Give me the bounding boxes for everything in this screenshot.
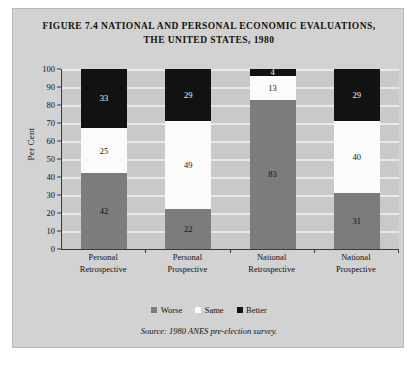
bar-segment-worse[interactable]: 22 xyxy=(165,209,211,249)
legend-swatch-icon xyxy=(237,307,243,313)
legend-item[interactable]: Same xyxy=(195,305,223,315)
x-axis-label-line: National xyxy=(314,252,398,264)
x-axis-label-line: Personal xyxy=(145,252,229,264)
bar-segment-same[interactable]: 49 xyxy=(165,121,211,209)
bar-segment-worse[interactable]: 83 xyxy=(250,100,296,249)
legend-item[interactable]: Better xyxy=(237,305,267,315)
y-axis-tick-label: 40 xyxy=(47,172,56,182)
y-axis-tick-label: 10 xyxy=(47,226,56,236)
x-axis-label-line: Prospective xyxy=(314,264,398,276)
bar-segment-better[interactable]: 29 xyxy=(165,69,211,121)
x-axis-label-line: National xyxy=(230,252,314,264)
bar-stack[interactable]: 314029 xyxy=(334,69,380,249)
figure-panel: FIGURE 7.4 NATIONAL AND PERSONAL ECONOMI… xyxy=(12,8,404,348)
source-note: Source: 1980 ANES pre-election survey. xyxy=(13,326,405,336)
x-axis-label-line: Prospective xyxy=(145,264,229,276)
y-axis-tick-label: 90 xyxy=(47,82,56,92)
bar-segment-better[interactable]: 29 xyxy=(334,69,380,121)
y-axis-tick-label: 60 xyxy=(47,136,56,146)
x-axis-tick-mark xyxy=(398,249,399,253)
y-axis-tick-label: 20 xyxy=(47,208,56,218)
x-axis-category-label: NationalRetrospective xyxy=(230,252,314,275)
y-axis-tick-label: 0 xyxy=(51,244,55,254)
x-axis-label-layer: PersonalRetrospectivePersonalProspective… xyxy=(61,252,398,282)
y-axis-tick-label: 70 xyxy=(47,118,56,128)
bar-segment-same[interactable]: 13 xyxy=(250,76,296,99)
y-axis-tick-label: 30 xyxy=(47,190,56,200)
x-axis-label-line: Retrospective xyxy=(230,264,314,276)
x-axis-category-label: PersonalProspective xyxy=(145,252,229,275)
legend-swatch-icon xyxy=(195,307,201,313)
bar-segment-same[interactable]: 40 xyxy=(334,121,380,193)
x-axis-category-label: NationalProspective xyxy=(314,252,398,275)
bar-segment-same[interactable]: 25 xyxy=(81,128,127,173)
y-axis-tick-layer: 0102030405060708090100 xyxy=(13,69,61,249)
legend-swatch-icon xyxy=(151,307,157,313)
bar-stack[interactable]: 422533 xyxy=(81,69,127,249)
legend-item[interactable]: Worse xyxy=(151,305,182,315)
plot-area: 42253322492983134314029 xyxy=(61,69,399,250)
bar-segment-worse[interactable]: 31 xyxy=(334,193,380,249)
figure-title-line-2: THE UNITED STATES, 1980 xyxy=(13,33,405,47)
legend-label: Worse xyxy=(161,305,183,315)
y-axis-tick-label: 100 xyxy=(42,64,55,74)
y-axis-tick-label: 50 xyxy=(47,154,56,164)
bar-segment-better[interactable]: 33 xyxy=(81,69,127,128)
legend-label: Better xyxy=(246,305,267,315)
chart-legend: WorseSameBetter xyxy=(13,305,405,315)
y-axis-tick-label: 80 xyxy=(47,100,56,110)
bar-segment-worse[interactable]: 42 xyxy=(81,173,127,249)
legend-label: Same xyxy=(205,305,224,315)
x-axis-label-line: Retrospective xyxy=(61,264,145,276)
bar-stack[interactable]: 83134 xyxy=(250,69,296,249)
bar-stack[interactable]: 224929 xyxy=(165,69,211,249)
bar-segment-better[interactable]: 4 xyxy=(250,69,296,76)
figure-title-line-1: FIGURE 7.4 NATIONAL AND PERSONAL ECONOMI… xyxy=(13,19,405,33)
x-axis-label-line: Personal xyxy=(61,252,145,264)
x-axis-category-label: PersonalRetrospective xyxy=(61,252,145,275)
figure-title: FIGURE 7.4 NATIONAL AND PERSONAL ECONOMI… xyxy=(13,19,405,47)
